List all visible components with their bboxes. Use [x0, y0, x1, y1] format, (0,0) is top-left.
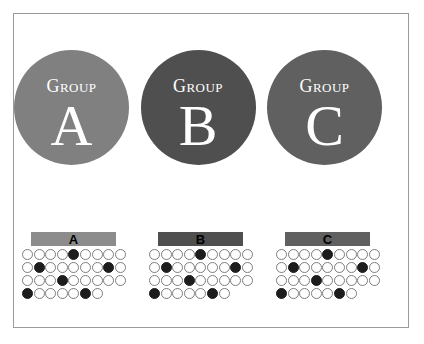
dot-open — [242, 249, 253, 260]
dot-row — [276, 275, 403, 287]
dot-filled — [195, 249, 206, 260]
group-circle-letter: A — [51, 98, 93, 153]
dot-row — [22, 275, 149, 287]
dot-open — [299, 288, 310, 299]
dot-open — [346, 249, 357, 260]
dot-filled — [311, 275, 322, 286]
dot-filled — [149, 288, 160, 299]
dot-open — [230, 249, 241, 260]
dot-open — [288, 288, 299, 299]
dot-open — [92, 262, 103, 273]
dot-open — [276, 275, 287, 286]
dot-open — [34, 249, 45, 260]
group-panels-row: ABC — [22, 232, 404, 324]
figure-root: GroupAGroupBGroupC ABC — [0, 0, 424, 344]
panel-label-bar: C — [285, 232, 370, 246]
dot-open — [322, 275, 333, 286]
panel-label-text: B — [196, 233, 205, 246]
dot-open — [57, 262, 68, 273]
dot-grid — [22, 249, 149, 300]
dot-row — [276, 262, 403, 274]
group-circle-letter: C — [305, 98, 344, 153]
dot-open — [207, 262, 218, 273]
dot-filled — [68, 249, 79, 260]
dot-open — [311, 262, 322, 273]
dot-open — [242, 262, 253, 273]
dot-open — [161, 275, 172, 286]
panel-label-text: C — [323, 233, 332, 246]
dot-open — [276, 249, 287, 260]
dot-open — [45, 249, 56, 260]
dot-open — [334, 262, 345, 273]
dot-grid — [276, 249, 403, 300]
dot-open — [184, 262, 195, 273]
group-panel-b: B — [149, 232, 276, 324]
dot-open — [219, 249, 230, 260]
dot-open — [311, 288, 322, 299]
dot-row — [149, 262, 276, 274]
dot-open — [68, 275, 79, 286]
dot-open — [288, 249, 299, 260]
dot-filled — [276, 288, 287, 299]
dot-open — [68, 262, 79, 273]
group-circle-b: GroupB — [141, 50, 256, 165]
dot-open — [103, 249, 114, 260]
dot-open — [115, 249, 126, 260]
dot-open — [92, 288, 103, 299]
dot-open — [334, 275, 345, 286]
dot-open — [195, 275, 206, 286]
dot-row — [22, 262, 149, 274]
dot-open — [172, 249, 183, 260]
dot-filled — [22, 288, 33, 299]
dot-open — [161, 249, 172, 260]
dot-open — [57, 249, 68, 260]
dot-open — [45, 275, 56, 286]
group-panel-a: A — [22, 232, 149, 324]
group-circle-a: GroupA — [14, 50, 129, 165]
dot-open — [207, 275, 218, 286]
dot-open — [80, 249, 91, 260]
dot-open — [184, 288, 195, 299]
dot-row — [22, 288, 149, 300]
panel-label-bar: B — [158, 232, 243, 246]
dot-open — [195, 262, 206, 273]
dot-filled — [57, 275, 68, 286]
dot-open — [346, 262, 357, 273]
dot-open — [103, 275, 114, 286]
dot-open — [68, 288, 79, 299]
group-circle-letter: B — [179, 98, 218, 153]
dot-row — [149, 275, 276, 287]
dot-open — [322, 288, 333, 299]
dot-open — [207, 249, 218, 260]
dot-open — [22, 275, 33, 286]
dot-filled — [334, 288, 345, 299]
dot-open — [92, 249, 103, 260]
group-circles-row: GroupAGroupBGroupC — [14, 50, 382, 170]
dot-open — [299, 262, 310, 273]
dot-open — [334, 249, 345, 260]
dot-open — [369, 262, 380, 273]
dot-open — [149, 249, 160, 260]
dot-open — [34, 288, 45, 299]
dot-open — [195, 288, 206, 299]
dot-open — [149, 275, 160, 286]
dot-filled — [207, 288, 218, 299]
dot-open — [369, 275, 380, 286]
dot-open — [34, 275, 45, 286]
dot-open — [288, 275, 299, 286]
dot-open — [45, 288, 56, 299]
dot-open — [172, 288, 183, 299]
dot-open — [219, 262, 230, 273]
dot-open — [299, 249, 310, 260]
dot-open — [184, 249, 195, 260]
dot-open — [299, 275, 310, 286]
dot-open — [242, 275, 253, 286]
dot-open — [149, 262, 160, 273]
dot-row — [276, 249, 403, 261]
dot-open — [161, 288, 172, 299]
dot-grid — [149, 249, 276, 300]
dot-open — [92, 275, 103, 286]
dot-open — [80, 275, 91, 286]
dot-filled — [34, 262, 45, 273]
dot-filled — [103, 262, 114, 273]
